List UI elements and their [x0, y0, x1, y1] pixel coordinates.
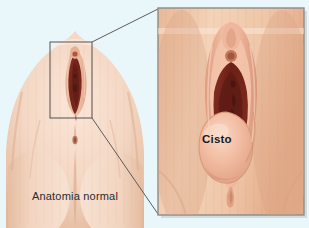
cyst-label: Cisto [202, 133, 232, 145]
anatomical-illustration: Anatomia normal Cisto [0, 0, 309, 228]
left-panel-caption: Anatomia normal [0, 190, 150, 202]
